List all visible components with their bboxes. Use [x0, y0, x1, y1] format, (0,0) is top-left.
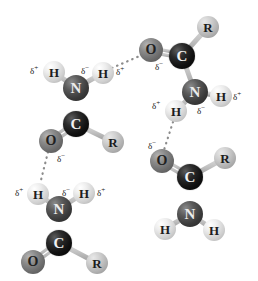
charge-label-chg-ur-h-left: δ+	[152, 101, 160, 111]
atom-o-ul-o: O	[39, 129, 63, 153]
atom-r-ul-r: R	[102, 131, 124, 153]
atom-r-ur-r: R	[197, 16, 219, 38]
atom-n-ll-n: N	[46, 196, 72, 222]
charge-label-chg-ur-o: δ−	[155, 62, 163, 72]
charge-label-chg-ul-h-right: δ+	[116, 67, 124, 77]
atom-n-ur-n: N	[182, 79, 208, 105]
charge-label-chg-ll-h-left: δ+	[15, 188, 23, 198]
atom-n-lr-n: N	[177, 201, 203, 227]
atom-c-ur-c: C	[169, 43, 195, 69]
atom-h-ur-h-left: H	[165, 100, 187, 122]
charge-label-chg-ur-h-right: δ+	[233, 92, 241, 102]
charge-label-chg-ul-o: δ−	[57, 154, 65, 164]
atom-h-lr-h-right: H	[203, 219, 225, 241]
charge-label-chg-ul-n: δ−	[81, 66, 89, 76]
atom-h-ll-h-left: H	[27, 183, 49, 205]
atom-c-ll-c: C	[46, 230, 72, 256]
charge-label-chg-ll-h-right: δ+	[97, 188, 105, 198]
hydrogen-bonding-diagram: HNHCORRCONHHHNHCOROCRNHH δ+δ−δ+δ−δ−δ+δ−δ…	[0, 0, 258, 281]
atom-c-ul-c: C	[63, 111, 89, 137]
hydrogen-bond-dotted-line	[164, 122, 173, 150]
atom-o-ll-o: O	[21, 250, 45, 274]
charge-label-chg-ll-n: δ−	[62, 188, 70, 198]
charge-label-chg-ur-n: δ−	[197, 106, 205, 116]
charge-label-chg-lr-o: δ−	[148, 141, 156, 151]
atom-n-ul-n: N	[63, 75, 89, 101]
atom-o-lr-o: O	[150, 149, 174, 173]
atom-h-ul-h-left: H	[43, 61, 65, 83]
charge-label-chg-ul-h-left: δ+	[30, 66, 38, 76]
atom-h-ul-h-right: H	[92, 62, 114, 84]
atom-r-lr-r: R	[214, 147, 236, 169]
atom-c-lr-c: C	[177, 164, 203, 190]
atom-h-ll-h-right: H	[73, 182, 95, 204]
atom-o-ur-o: O	[139, 38, 163, 62]
atom-h-ur-h-right: H	[210, 85, 232, 107]
atom-r-ll-r: R	[86, 252, 108, 274]
hydrogen-bond-dotted-line	[40, 152, 48, 184]
atom-h-lr-h-left: H	[154, 218, 176, 240]
